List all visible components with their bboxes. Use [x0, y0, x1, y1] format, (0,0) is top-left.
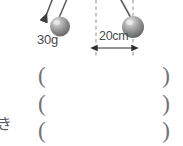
figure-page: 30g 20cm き ( ) ( ) ( ): [0, 0, 183, 146]
left-pendulum-bob-highlight: [54, 20, 60, 25]
left-pendulum-string-arrow: [46, 0, 53, 17]
paren-open: (: [38, 119, 46, 142]
mass-label: 30g: [37, 33, 58, 46]
answer-blank-3[interactable]: ( ): [38, 117, 170, 143]
paren-open: (: [38, 64, 46, 87]
kanji-fragment-label: き: [0, 117, 12, 132]
distance-label: 20cm: [99, 30, 128, 43]
paren-close: ): [162, 92, 170, 115]
right-pendulum-string: [121, 0, 132, 19]
left-pendulum-string: [59, 0, 68, 19]
answer-blank-1[interactable]: ( ): [38, 62, 170, 88]
paren-open: (: [38, 92, 46, 115]
right-pendulum-bob-highlight: [126, 20, 133, 25]
paren-close: ): [162, 119, 170, 142]
answer-blank-2[interactable]: ( ): [38, 90, 170, 116]
paren-close: ): [162, 64, 170, 87]
